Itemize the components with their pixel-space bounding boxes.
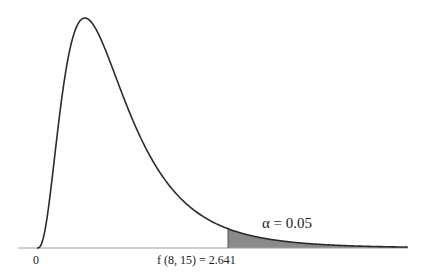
f-distribution-chart	[0, 0, 426, 277]
zero-tick-label: 0	[33, 253, 39, 268]
alpha-annotation: α = 0.05	[262, 215, 312, 232]
density-curve	[37, 18, 408, 248]
rejection-region-shade	[228, 229, 408, 248]
critical-value-label: f (8, 15) = 2.641	[157, 253, 236, 268]
